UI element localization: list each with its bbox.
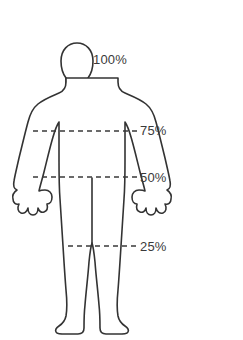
body-outline-layer	[0, 0, 243, 340]
body-silhouette	[0, 0, 243, 340]
percent-label-100: 100%	[93, 53, 127, 66]
diagram-canvas: 100% 75% 50% 25%	[0, 0, 243, 340]
percent-label-25: 25%	[140, 240, 167, 253]
percent-label-75: 75%	[140, 124, 167, 137]
percent-label-50: 50%	[140, 171, 167, 184]
